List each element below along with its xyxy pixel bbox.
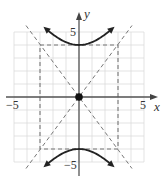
x-max-label: 5 — [140, 98, 146, 112]
x-axis-label: x — [153, 99, 160, 114]
hyperbola-graph: −5 5 x 5 −5 y — [0, 0, 167, 177]
center-point — [75, 93, 83, 101]
y-axis-arrow-icon — [76, 12, 82, 20]
y-max-label: 5 — [70, 25, 76, 39]
x-min-label: −5 — [6, 98, 19, 112]
y-min-label: −5 — [64, 158, 77, 172]
y-axis-label: y — [82, 6, 90, 21]
